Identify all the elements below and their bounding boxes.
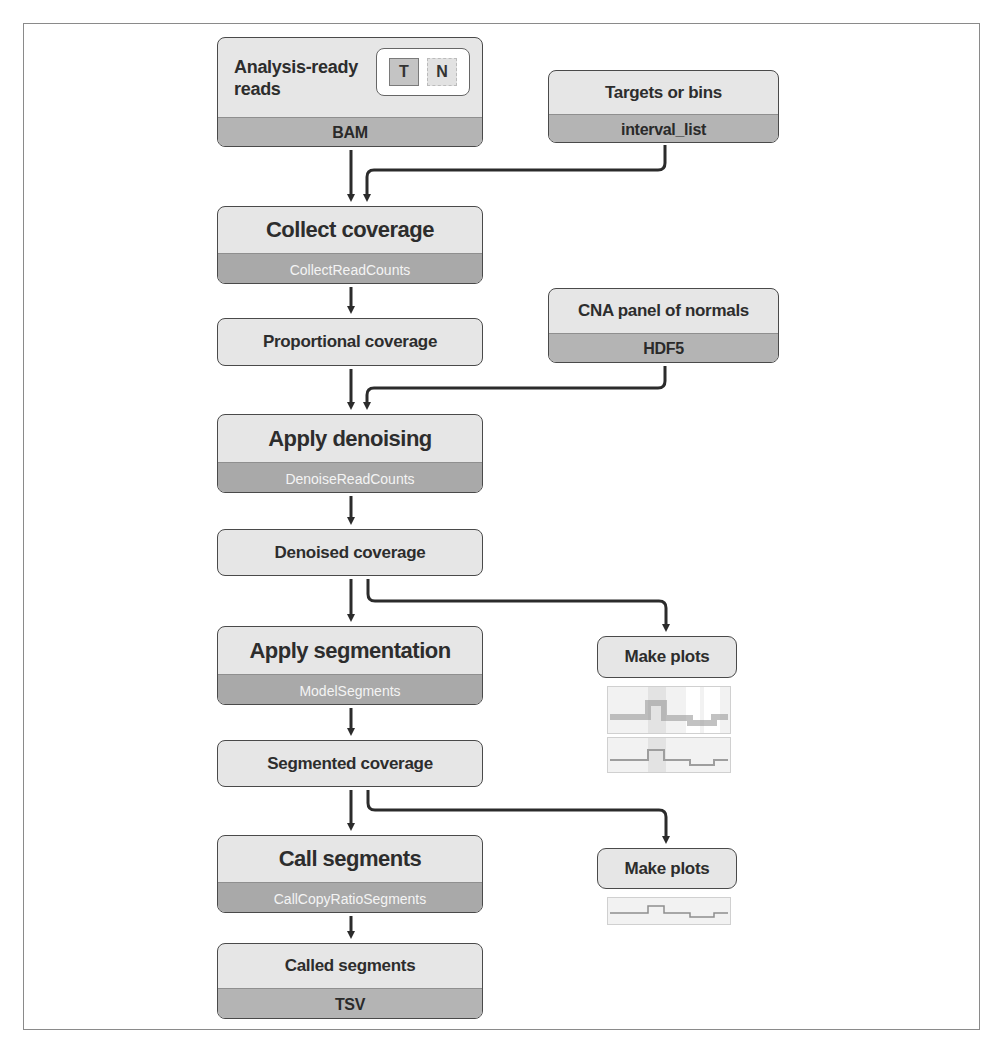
- side-make-plots-2: Make plots: [597, 848, 737, 889]
- output-format-label: TSV: [218, 988, 482, 1019]
- side-title: Make plots: [598, 637, 736, 677]
- intermediate-title: Proportional coverage: [218, 319, 482, 365]
- input-reads-box: Analysis-ready reads T N BAM: [217, 37, 483, 147]
- reads-title-line2: reads: [234, 78, 358, 100]
- intermediate-title: Denoised coverage: [218, 530, 482, 575]
- intermediate-title: Segmented coverage: [218, 741, 482, 786]
- step-collect-coverage: Collect coverage CollectReadCounts: [217, 206, 483, 284]
- intervals-title: Targets or bins: [549, 71, 778, 114]
- pon-format-label: HDF5: [549, 333, 778, 363]
- allele-fraction-plot-thumbnail: [607, 737, 731, 773]
- side-make-plots-1: Make plots: [597, 636, 737, 678]
- intermediate-segmented-coverage: Segmented coverage: [217, 740, 483, 787]
- plot-trace-icon: [608, 738, 730, 772]
- plot-trace-icon: [608, 898, 730, 924]
- plot-trace-icon: [608, 687, 730, 733]
- tool-name: DenoiseReadCounts: [218, 462, 482, 493]
- normal-sample-icon: N: [427, 58, 457, 86]
- reads-format-label: BAM: [218, 117, 482, 147]
- step-title: Call segments: [218, 836, 482, 882]
- connector-arrows: [0, 0, 996, 1045]
- intermediate-denoised-coverage: Denoised coverage: [217, 529, 483, 576]
- step-apply-segmentation: Apply segmentation ModelSegments: [217, 626, 483, 705]
- intermediate-proportional-coverage: Proportional coverage: [217, 318, 483, 366]
- tumor-normal-badge: T N: [376, 48, 470, 96]
- step-title: Collect coverage: [218, 207, 482, 253]
- tool-name: CallCopyRatioSegments: [218, 882, 482, 913]
- intervals-format-label: interval_list: [549, 114, 778, 143]
- step-title: Apply segmentation: [218, 627, 482, 674]
- step-apply-denoising: Apply denoising DenoiseReadCounts: [217, 414, 483, 493]
- copy-ratio-plot-thumbnail: [607, 686, 731, 734]
- step-call-segments: Call segments CallCopyRatioSegments: [217, 835, 483, 913]
- output-title: Called segments: [218, 944, 482, 988]
- side-title: Make plots: [598, 849, 736, 888]
- input-pon-box: CNA panel of normals HDF5: [548, 288, 779, 363]
- tool-name: CollectReadCounts: [218, 253, 482, 284]
- tool-name: ModelSegments: [218, 674, 482, 705]
- input-intervals-box: Targets or bins interval_list: [548, 70, 779, 143]
- tumor-sample-icon: T: [389, 58, 419, 86]
- step-title: Apply denoising: [218, 415, 482, 462]
- reads-title-line1: Analysis-ready: [234, 56, 358, 78]
- called-segments-plot-thumbnail: [607, 897, 731, 925]
- output-called-segments: Called segments TSV: [217, 943, 483, 1019]
- pon-title: CNA panel of normals: [549, 289, 778, 333]
